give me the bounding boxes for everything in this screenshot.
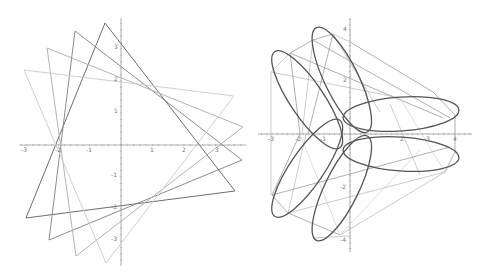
left-y-tick-label: 1 bbox=[114, 107, 118, 114]
right-x-tick-label: -3 bbox=[268, 135, 274, 142]
left-x-tick-label: 2 bbox=[182, 146, 186, 153]
right-y-tick-label: 4 bbox=[343, 25, 347, 32]
left-y-tick-label: 2 bbox=[114, 75, 118, 82]
right-x-tick-label: 3 bbox=[426, 135, 430, 142]
right-x-tick-label: -2 bbox=[295, 135, 301, 142]
left-x-tick-label: -1 bbox=[86, 146, 92, 153]
left-x-tick-label: 3 bbox=[215, 146, 219, 153]
left-x-tick-label: -2 bbox=[55, 146, 61, 153]
right-x-tick-label: 2 bbox=[400, 135, 404, 142]
right-y-tick-label: -4 bbox=[340, 236, 346, 243]
left-x-tick-label: 1 bbox=[150, 146, 154, 153]
right-y-tick-label: -2 bbox=[340, 183, 346, 190]
left-y-tick-label: -2 bbox=[111, 203, 117, 210]
left-y-tick-label: -3 bbox=[111, 235, 117, 242]
left-y-tick-label: -1 bbox=[111, 171, 117, 178]
right-x-tick-label: 4 bbox=[453, 135, 457, 142]
left-x-tick-label: -3 bbox=[21, 146, 27, 153]
right-y-tick-label: 2 bbox=[343, 76, 347, 83]
right-x-tick-label: -1 bbox=[320, 135, 326, 142]
figure-canvas: -3-2-1123321-1-2-3 -3-2-123442-2-4 bbox=[0, 0, 485, 278]
left-y-tick-label: 3 bbox=[114, 43, 118, 50]
